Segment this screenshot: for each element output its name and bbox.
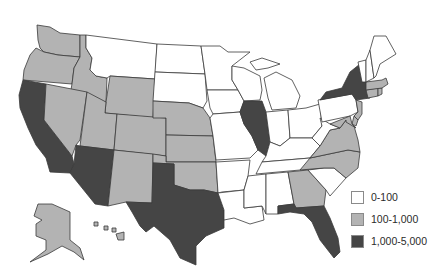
legend-item-mid: 100-1,000 <box>351 208 427 230</box>
state-ia <box>207 90 244 114</box>
legend-swatch-high <box>351 235 364 248</box>
legend-label-mid: 100-1,000 <box>371 213 418 225</box>
state-hi <box>94 222 124 240</box>
state-me <box>370 36 396 78</box>
legend-item-high: 1,000-5,000 <box>351 230 427 252</box>
legend-label-high: 1,000-5,000 <box>371 235 427 247</box>
state-nm <box>108 150 153 206</box>
legend-swatch-low <box>351 191 364 204</box>
legend: 0-100 100-1,000 1,000-5,000 <box>351 186 427 252</box>
state-ks <box>166 135 216 162</box>
state-nd <box>155 44 205 74</box>
state-ak <box>30 204 84 262</box>
legend-swatch-mid <box>351 213 364 226</box>
state-mt <box>86 35 157 79</box>
state-fl <box>278 204 340 258</box>
legend-label-low: 0-100 <box>371 191 398 203</box>
state-wy <box>105 76 155 118</box>
state-ri <box>378 88 382 96</box>
state-az <box>70 145 114 206</box>
state-co <box>114 114 166 156</box>
legend-item-low: 0-100 <box>351 186 427 208</box>
